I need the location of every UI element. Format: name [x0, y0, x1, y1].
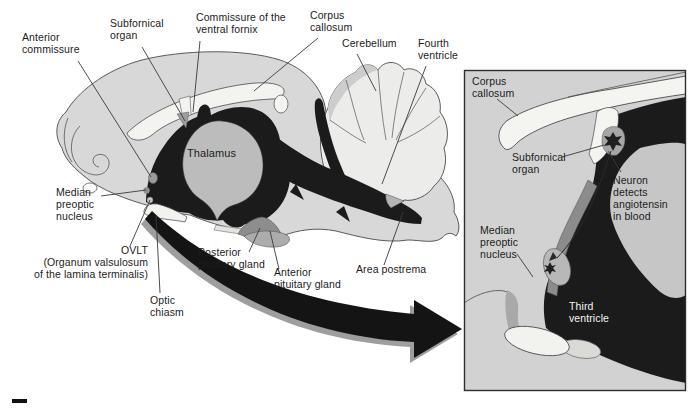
label-anterior-pituitary: Anterior pituitary gland: [274, 266, 341, 290]
label-ovlt: OVLT (Organum valsulosum of the lamina t…: [4, 244, 148, 280]
label-fourth-ventricle: Fourth ventricle: [418, 37, 458, 61]
label-posterior-pituitary: Posterior pituitary gland: [198, 246, 265, 270]
splenium-shape: [274, 95, 288, 113]
diagram-artwork: [0, 0, 689, 409]
label-inset-neuron-detects: Neuron detects angiotensin in blood: [613, 174, 668, 222]
main-brain: [57, 38, 462, 363]
label-inset-median-preoptic: Median preoptic nucleus: [480, 224, 518, 260]
label-subfornical-organ: Subfornical organ: [110, 17, 164, 41]
label-thalamus: Thalamus: [187, 147, 236, 159]
label-inset-corpus-callosum: Corpus callosum: [472, 75, 514, 99]
anterior-pituitary-shape: [244, 231, 290, 247]
label-inset-third-ventricle: Third ventricle: [569, 300, 609, 324]
label-cerebellum: Cerebellum: [342, 37, 397, 49]
label-inset-subfornical-organ: Subfornical organ: [512, 151, 566, 175]
anterior-commissure-shape: [149, 173, 158, 184]
label-area-postrema: Area postrema: [356, 263, 426, 275]
label-commissure-ventral-fornix: Commissure of the ventral fornix: [196, 11, 286, 35]
label-median-preoptic-nucleus: Median preoptic nucleus: [56, 186, 94, 222]
figure-number-marker: [12, 399, 27, 403]
label-anterior-commissure: Anterior commissure: [22, 31, 80, 55]
label-optic-chiasm: Optic chiasm: [150, 294, 184, 318]
brain-diagram-figure: Anterior commissure Subfornical organ Co…: [0, 0, 689, 409]
label-corpus-callosum: Corpus callosum: [310, 9, 352, 33]
